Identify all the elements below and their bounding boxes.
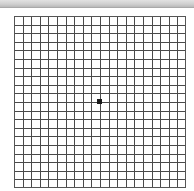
top-toolbar-band [0,0,194,8]
amsler-grid-view: Amsler grid [0,0,194,191]
amsler-grid [14,16,186,188]
grid-lines [14,16,186,188]
center-fixation-dot [97,99,102,104]
